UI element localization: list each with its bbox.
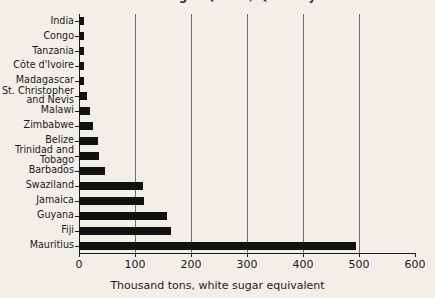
y-axis-tick — [75, 66, 79, 67]
bar — [79, 227, 171, 235]
y-axis-category-label: Jamaica — [0, 195, 74, 205]
y-axis-category-label: Côte d'Ivoire — [0, 60, 74, 70]
x-axis-tick-label: 200 — [181, 259, 202, 271]
bar-row — [79, 238, 356, 253]
y-axis-tick — [75, 156, 79, 157]
bar — [79, 182, 143, 190]
y-axis-category-label: St. Christopher and Nevis — [0, 86, 74, 105]
y-axis-category-label: Swaziland — [0, 180, 74, 190]
x-axis-tick — [79, 253, 80, 257]
gridline-300 — [247, 14, 248, 253]
bar — [79, 62, 84, 70]
x-axis-tick-label: 0 — [76, 259, 83, 271]
y-axis-category-label: Guyana — [0, 210, 74, 220]
bar — [79, 122, 93, 130]
bar — [79, 92, 87, 100]
x-axis-tick — [415, 253, 416, 257]
y-axis-tick — [75, 216, 79, 217]
bar-row — [79, 29, 84, 44]
x-axis-tick-label: 600 — [405, 259, 426, 271]
bar-row — [79, 119, 93, 134]
y-axis-tick — [75, 246, 79, 247]
y-axis-category-label: Fiji — [0, 225, 74, 235]
bar-row — [79, 59, 84, 74]
x-axis-tick-label: 500 — [349, 259, 370, 271]
x-axis-tick-label: 100 — [125, 259, 146, 271]
bar — [79, 197, 144, 205]
x-axis-tick — [191, 253, 192, 257]
bar-row — [79, 223, 171, 238]
y-axis-category-label: Barbados — [0, 165, 74, 175]
bar-row — [79, 104, 90, 119]
bar — [79, 212, 167, 220]
y-axis-category-label: Tanzania — [0, 46, 74, 56]
bar-row — [79, 193, 144, 208]
bar — [79, 107, 90, 115]
x-axis-tick — [247, 253, 248, 257]
bar-row — [79, 134, 98, 149]
chart-title: World Sugar Quota / Quantity — [0, 0, 435, 3]
bar — [79, 77, 84, 85]
bar — [79, 167, 105, 175]
y-axis-tick — [75, 186, 79, 187]
sugar-quota-bar-chart: World Sugar Quota / Quantity Thousand to… — [0, 0, 435, 298]
y-axis-category-label: India — [0, 16, 74, 26]
bar — [79, 17, 84, 25]
x-axis-tick-label: 400 — [293, 259, 314, 271]
y-axis-tick — [75, 51, 79, 52]
bar-row — [79, 178, 143, 193]
y-axis-category-label: Congo — [0, 31, 74, 41]
gridline-200 — [191, 14, 192, 253]
bar-row — [79, 89, 87, 104]
y-axis-tick — [75, 171, 79, 172]
bar-row — [79, 44, 84, 59]
y-axis-tick — [75, 126, 79, 127]
y-axis-tick — [75, 81, 79, 82]
bar-row — [79, 14, 84, 29]
x-axis-tick — [359, 253, 360, 257]
y-axis-category-label: Mauritius — [0, 240, 74, 250]
gridline-400 — [303, 14, 304, 253]
bar-row — [79, 74, 84, 89]
bar — [79, 32, 84, 40]
bar — [79, 152, 99, 160]
y-axis-tick — [75, 36, 79, 37]
y-axis-tick — [75, 21, 79, 22]
gridline-500 — [359, 14, 360, 253]
y-axis-category-label: Madagascar — [0, 75, 74, 85]
y-axis-category-label: Belize — [0, 135, 74, 145]
y-axis-tick — [75, 231, 79, 232]
y-axis-category-label: Zimbabwe — [0, 120, 74, 130]
bar — [79, 137, 98, 145]
x-axis-tick — [135, 253, 136, 257]
y-axis-tick — [75, 96, 79, 97]
y-axis-tick — [75, 111, 79, 112]
y-axis-category-label: Trinidad and Tobago — [0, 145, 74, 164]
bar-row — [79, 163, 105, 178]
y-axis-tick — [75, 141, 79, 142]
x-axis-tick — [303, 253, 304, 257]
bar — [79, 242, 356, 250]
y-axis-tick — [75, 201, 79, 202]
bar — [79, 47, 84, 55]
y-axis-category-label: Malawi — [0, 105, 74, 115]
bar-row — [79, 148, 99, 163]
x-axis-tick-label: 300 — [237, 259, 258, 271]
bar-row — [79, 208, 167, 223]
x-axis-title: Thousand tons, white sugar equivalent — [0, 279, 435, 292]
